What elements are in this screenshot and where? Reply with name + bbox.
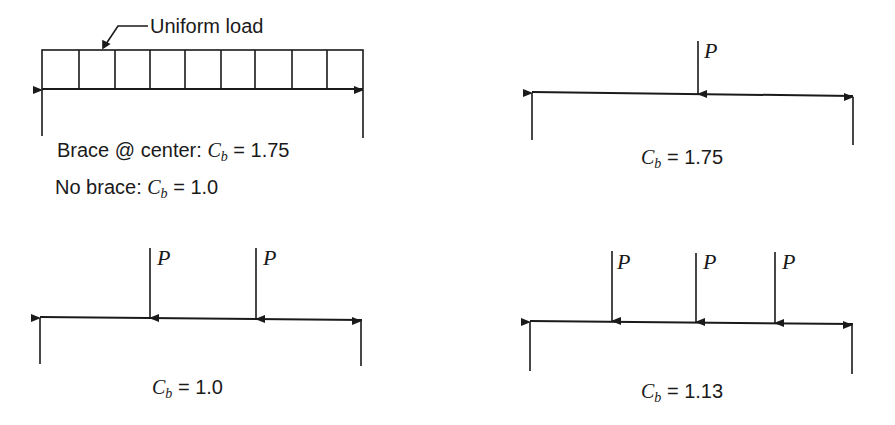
beam (40, 317, 362, 320)
load-label-p-1: P (617, 251, 630, 273)
cb-subscript: b (221, 149, 228, 164)
caption-prefix: Brace @ center: (57, 139, 207, 161)
cb-symbol: C (152, 376, 165, 398)
caption-cb: Cb = 1.75 (641, 147, 723, 171)
panel-single-point-load (532, 41, 853, 145)
caption-eq: = (172, 376, 195, 398)
panel-two-point-loads (40, 248, 362, 366)
load-label-p-1: P (157, 247, 170, 269)
caption-value: 1.0 (190, 176, 218, 198)
caption-no-brace: No brace: Cb = 1.0 (55, 177, 218, 201)
caption-prefix: No brace: (55, 176, 147, 198)
uniform-load-label: Uniform load (150, 16, 263, 36)
caption-eq: = (661, 146, 684, 168)
cb-subscript: b (161, 186, 168, 201)
load-block-dividers (79, 50, 327, 89)
beam-diagrams (0, 0, 895, 425)
load-label-p-2: P (263, 247, 276, 269)
uniform-load-block (42, 50, 363, 89)
cb-symbol: C (207, 139, 220, 161)
caption-eq: = (168, 176, 191, 198)
leader-arrow-line (106, 26, 148, 44)
cb-symbol: C (641, 146, 654, 168)
caption-cb: Cb = 1.0 (152, 377, 223, 401)
caption-value: 1.75 (684, 146, 723, 168)
caption-cb: Cb = 1.13 (641, 381, 723, 405)
cb-symbol: C (147, 176, 160, 198)
caption-value: 1.0 (195, 376, 223, 398)
load-label-p: P (704, 40, 717, 62)
load-label-p-2: P (703, 251, 716, 273)
load-label-p-3: P (782, 251, 795, 273)
beam (530, 321, 853, 324)
beam (532, 92, 853, 96)
panel-three-point-loads (530, 251, 853, 374)
cb-symbol: C (641, 380, 654, 402)
caption-eq: = (228, 139, 251, 161)
caption-value: 1.75 (251, 139, 290, 161)
caption-value: 1.13 (684, 380, 723, 402)
caption-brace-center: Brace @ center: Cb = 1.75 (57, 140, 289, 164)
panel-uniform-load (42, 26, 363, 138)
caption-eq: = (661, 380, 684, 402)
